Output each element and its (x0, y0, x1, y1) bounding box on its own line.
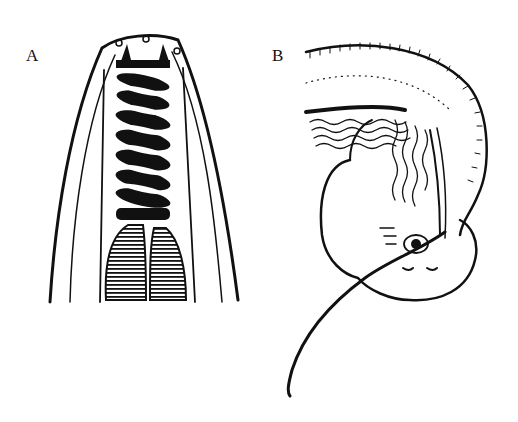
figure: A B (0, 0, 518, 422)
panel-b-drawing (0, 0, 518, 422)
